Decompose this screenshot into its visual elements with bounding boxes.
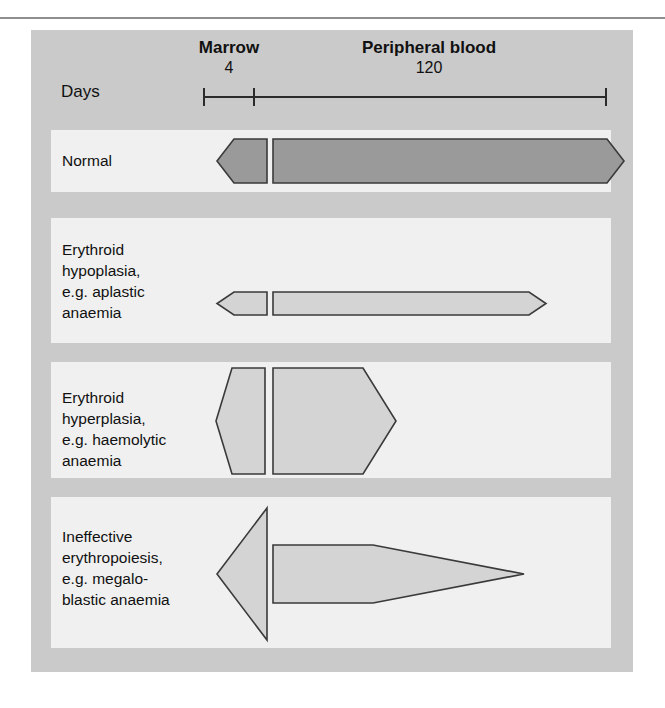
marrow-shape-normal — [217, 139, 267, 183]
diagram-row-erythroid-hypoplasia: Erythroid hypoplasia, e.g. aplastic anae… — [51, 218, 611, 343]
blood-shape-ineffective-erythropoiesis — [273, 545, 524, 603]
axis-segment-marrow — [203, 96, 254, 98]
diagram-row-ineffective-erythropoiesis: Ineffective erythropoiesis, e.g. megalo-… — [51, 497, 611, 648]
figure-panel: Marrow Peripheral blood 4 120 Days Norma… — [31, 30, 633, 672]
top-divider-rule — [0, 17, 665, 19]
axis-tick-marrow-blood-boundary — [253, 88, 255, 106]
row-shapes-erythroid-hyperplasia — [51, 362, 611, 478]
scale-bar — [31, 30, 633, 118]
blood-shape-erythroid-hyperplasia — [273, 368, 396, 474]
axis-segment-peripheral-blood — [253, 96, 606, 98]
marrow-shape-erythroid-hyperplasia — [216, 368, 265, 474]
row-shapes-normal — [51, 130, 611, 192]
axis-tick-start — [203, 88, 205, 106]
figure-header: Marrow Peripheral blood 4 120 Days — [31, 30, 633, 118]
marrow-shape-ineffective-erythropoiesis — [217, 508, 267, 640]
diagram-row-erythroid-hyperplasia: Erythroid hyperplasia, e.g. haemolytic a… — [51, 362, 611, 478]
blood-shape-normal — [273, 139, 624, 183]
blood-shape-erythroid-hypoplasia — [273, 292, 546, 315]
diagram-row-normal: Normal — [51, 130, 611, 192]
row-shapes-ineffective-erythropoiesis — [51, 497, 611, 648]
axis-tick-end — [605, 88, 607, 106]
row-shapes-erythroid-hypoplasia — [51, 218, 611, 343]
marrow-shape-erythroid-hypoplasia — [217, 292, 267, 315]
